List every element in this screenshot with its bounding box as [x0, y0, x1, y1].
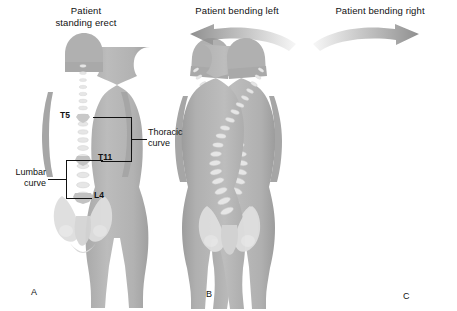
caption-panel-c: Patient bending right: [314, 5, 446, 17]
panel-letter-b: B: [206, 289, 212, 299]
panel-letter-a: A: [31, 287, 37, 297]
spine-lateral-flexion-illustration: [0, 0, 457, 311]
label-thoracic-curve: Thoracic curve: [148, 127, 183, 148]
panel-letter-c: C: [403, 291, 410, 301]
caption-a-line1: Patient: [71, 5, 101, 16]
thoracic-line2: curve: [148, 138, 170, 148]
label-t11: T11: [98, 152, 112, 162]
label-l4: L4: [94, 190, 104, 200]
caption-c-line1: Patient bending right: [335, 5, 424, 16]
caption-panel-b: Patient bending left: [175, 5, 299, 17]
caption-panel-a: Patient standing erect: [38, 5, 134, 28]
caption-b-line1: Patient bending left: [195, 5, 278, 16]
caption-a-line2: standing erect: [55, 17, 116, 28]
label-lumbar-curve: Lumbar curve: [2, 167, 46, 188]
label-t5: T5: [60, 110, 70, 120]
thoracic-line1: Thoracic: [148, 127, 183, 137]
lumbar-line1: Lumbar: [15, 167, 46, 177]
lumbar-line2: curve: [24, 178, 46, 188]
